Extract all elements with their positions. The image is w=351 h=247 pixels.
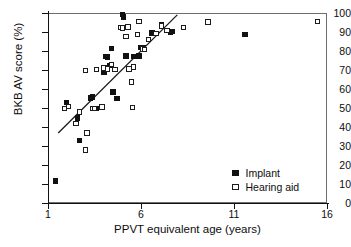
y-tick-label: 60 bbox=[311, 84, 351, 95]
data-point-implant bbox=[131, 54, 136, 59]
data-point-implant bbox=[109, 46, 114, 51]
y-tick bbox=[42, 89, 48, 90]
open-square-icon bbox=[232, 184, 239, 191]
data-point-hearing-aid bbox=[125, 24, 130, 29]
data-point-hearing-aid bbox=[146, 37, 151, 42]
data-point-hearing-aid bbox=[181, 25, 186, 30]
y-tick bbox=[42, 70, 48, 71]
data-point-hearing-aid bbox=[159, 23, 164, 28]
y-tick-label: 80 bbox=[311, 46, 351, 57]
y-axis-label: BKB AV score (%) bbox=[12, 0, 24, 144]
data-point-implant bbox=[114, 96, 119, 101]
x-axis-line bbox=[46, 203, 329, 204]
y-tick-label: 40 bbox=[311, 122, 351, 133]
data-point-implant bbox=[90, 94, 95, 99]
data-point-implant bbox=[110, 89, 115, 94]
legend: Implant Hearing aid bbox=[232, 166, 299, 194]
y-axis-line bbox=[48, 11, 49, 205]
scatter-plot-figure: 0102030405060708090100 161116 BKB AV sco… bbox=[0, 0, 351, 247]
y-tick-label: 30 bbox=[311, 141, 351, 152]
data-point-implant bbox=[123, 53, 128, 58]
legend-item-hearing-aid: Hearing aid bbox=[232, 180, 299, 194]
legend-item-implant: Implant bbox=[232, 166, 299, 180]
data-point-hearing-aid bbox=[136, 19, 141, 24]
x-tick-label: 1 bbox=[28, 209, 68, 220]
data-point-hearing-aid bbox=[66, 104, 71, 109]
data-point-hearing-aid bbox=[73, 121, 78, 126]
y-tick-label: 20 bbox=[311, 160, 351, 171]
data-point-implant bbox=[77, 138, 82, 143]
y-tick-label: 50 bbox=[311, 103, 351, 114]
data-point-implant bbox=[121, 14, 126, 19]
y-tick-label: 90 bbox=[311, 27, 351, 38]
y-tick bbox=[42, 13, 48, 14]
x-tick-label: 11 bbox=[214, 209, 254, 220]
data-point-hearing-aid bbox=[92, 106, 97, 111]
data-point-implant bbox=[105, 54, 110, 59]
y-tick bbox=[42, 108, 48, 109]
data-point-hearing-aid bbox=[131, 64, 136, 69]
data-point-hearing-aid bbox=[83, 68, 88, 73]
y-tick-label: 10 bbox=[311, 179, 351, 190]
data-point-implant bbox=[136, 53, 141, 58]
legend-label-hearing-aid: Hearing aid bbox=[246, 181, 300, 193]
data-point-hearing-aid bbox=[315, 19, 320, 24]
y-tick bbox=[42, 184, 48, 185]
data-point-hearing-aid bbox=[135, 32, 140, 37]
x-tick-label: 6 bbox=[121, 209, 161, 220]
data-point-implant bbox=[53, 178, 58, 183]
y-tick bbox=[42, 127, 48, 128]
y-tick-label: 100 bbox=[311, 8, 351, 19]
data-point-hearing-aid bbox=[153, 31, 158, 36]
data-point-hearing-aid bbox=[164, 28, 169, 33]
data-point-hearing-aid bbox=[205, 19, 210, 24]
y-tick-label: 0 bbox=[311, 198, 351, 209]
data-point-hearing-aid bbox=[84, 130, 89, 135]
data-point-hearing-aid bbox=[99, 104, 104, 109]
legend-label-implant: Implant bbox=[246, 167, 280, 179]
data-point-hearing-aid bbox=[123, 34, 128, 39]
data-point-hearing-aid bbox=[94, 67, 99, 72]
y-tick-label: 70 bbox=[311, 65, 351, 76]
x-tick-label: 16 bbox=[307, 209, 347, 220]
data-point-hearing-aid bbox=[83, 147, 88, 152]
data-point-implant bbox=[170, 29, 175, 34]
data-point-hearing-aid bbox=[120, 25, 125, 30]
data-point-hearing-aid bbox=[142, 47, 147, 52]
x-axis-label: PPVT equivalent age (years) bbox=[48, 223, 327, 235]
y-tick bbox=[42, 51, 48, 52]
filled-square-icon bbox=[232, 170, 239, 177]
data-point-hearing-aid bbox=[129, 79, 134, 84]
data-point-hearing-aid bbox=[77, 109, 82, 114]
data-point-hearing-aid bbox=[130, 105, 135, 110]
data-point-implant bbox=[242, 32, 247, 37]
y-tick bbox=[42, 146, 48, 147]
y-tick bbox=[42, 165, 48, 166]
data-point-hearing-aid bbox=[112, 67, 117, 72]
y-tick bbox=[42, 32, 48, 33]
